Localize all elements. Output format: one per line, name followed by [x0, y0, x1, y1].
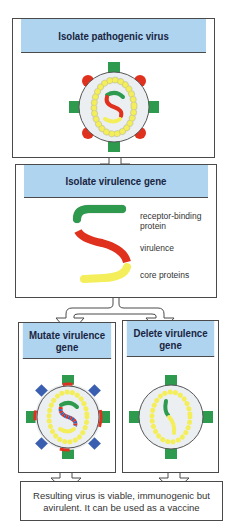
title-text: Delete virulence	[133, 327, 207, 339]
label-core-proteins: core proteins	[140, 270, 189, 280]
virulence-gene-segments	[74, 205, 134, 285]
step-mutate-gene: Mutate virulence gene	[18, 322, 116, 473]
step-title: Isolate virulence gene	[24, 165, 208, 198]
title-text: Isolate virulence gene	[66, 175, 167, 187]
result-text: Resulting virus is viable, immunogenic b…	[21, 490, 222, 514]
title-text: gene	[29, 341, 105, 353]
title-text: Mutate virulence	[29, 329, 105, 341]
result-line: Resulting virus is viable, immunogenic b…	[21, 490, 222, 502]
label-line: protein	[140, 221, 201, 231]
pathogenic-virus-icon	[69, 62, 159, 152]
label-line: receptor-binding	[140, 211, 201, 221]
step-title: Isolate pathogenic virus	[21, 19, 206, 53]
step-isolate-virus: Isolate pathogenic virus	[12, 18, 215, 158]
label-receptor-binding: receptor-binding protein	[140, 211, 201, 231]
step-title: Mutate virulence gene	[23, 323, 111, 359]
title-text: Isolate pathogenic virus	[58, 30, 169, 42]
result-line: avirulent. It can be used as a vaccine	[21, 502, 222, 514]
deleted-gene-virus-icon	[129, 375, 213, 459]
step-result: Resulting virus is viable, immunogenic b…	[20, 481, 223, 521]
step-delete-gene: Delete virulence gene	[122, 320, 219, 473]
label-virulence: virulence	[140, 243, 174, 253]
step-title: Delete virulence gene	[127, 321, 214, 357]
step-isolate-gene: Isolate virulence gene receptor-binding …	[15, 164, 217, 298]
mutated-virus-icon	[26, 375, 110, 459]
title-text: gene	[133, 339, 207, 351]
